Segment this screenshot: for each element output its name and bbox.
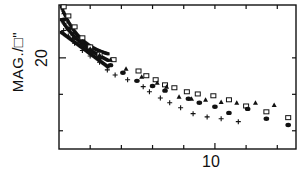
triangle-marker	[234, 100, 239, 105]
circle-marker	[245, 107, 251, 111]
square-marker	[195, 92, 200, 96]
circle-marker	[120, 71, 126, 75]
circle-marker	[186, 96, 192, 100]
circle-marker	[226, 111, 232, 115]
square-marker	[286, 116, 291, 120]
y-tick-label-20: 20	[32, 46, 52, 70]
square-marker	[184, 90, 189, 94]
square-marker	[264, 110, 269, 114]
plus-marker	[191, 111, 196, 116]
square-marker	[144, 74, 149, 78]
circle-marker	[80, 43, 86, 47]
chart: MAG./□" 20 10	[0, 0, 303, 193]
plus-marker	[158, 95, 163, 100]
circle-marker	[134, 79, 140, 83]
plot-frame	[59, 5, 296, 149]
square-marker	[66, 14, 71, 18]
square-marker	[172, 86, 177, 90]
plus-marker	[219, 116, 224, 121]
plus-marker	[113, 72, 118, 77]
plus-marker	[167, 100, 172, 105]
triangle-marker	[219, 99, 224, 104]
plus-marker	[125, 77, 130, 82]
y-axis-label: MAG./□"	[4, 12, 30, 112]
circle-marker	[212, 105, 218, 109]
circle-marker	[150, 84, 156, 88]
circle-marker	[197, 101, 203, 105]
square-marker	[226, 98, 231, 102]
circle-marker	[61, 17, 67, 21]
cluster-point	[107, 52, 110, 55]
circle-marker	[72, 36, 78, 40]
triangle-marker	[203, 97, 208, 102]
triangle-marker	[253, 100, 258, 105]
circle-marker	[285, 123, 291, 127]
circle-marker	[162, 88, 168, 92]
plot-area	[0, 0, 303, 193]
plus-marker	[236, 119, 241, 124]
circle-marker	[66, 26, 72, 30]
plus-marker	[205, 114, 210, 119]
plus-marker	[147, 89, 152, 94]
plus-marker	[141, 84, 146, 89]
triangle-marker	[272, 102, 277, 107]
square-marker	[72, 25, 77, 29]
circle-marker	[108, 63, 114, 67]
triangle-marker	[177, 94, 182, 99]
triangle-marker	[124, 66, 129, 71]
x-tick-label-10: 10	[202, 153, 220, 171]
circle-marker	[264, 117, 270, 121]
plus-marker	[178, 105, 183, 110]
square-marker	[136, 69, 141, 73]
square-marker	[211, 94, 216, 98]
square-marker	[61, 5, 66, 9]
circle-marker	[97, 56, 103, 60]
